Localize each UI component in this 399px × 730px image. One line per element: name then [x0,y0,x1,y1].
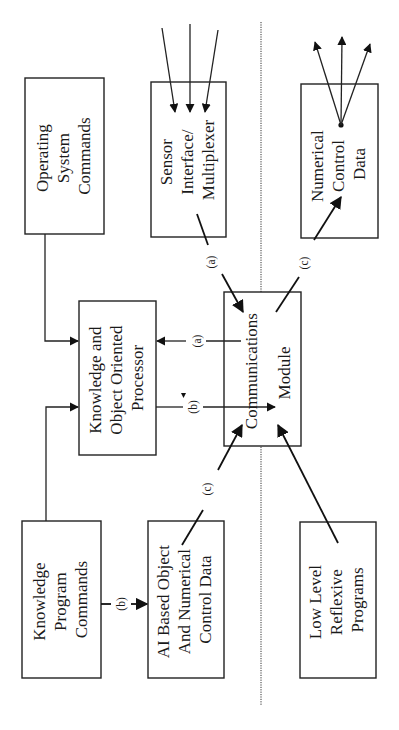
knowledge-object-processor-box: Knowledge and Object Oriented Processor [79,301,156,455]
program-line-2: Program [51,572,70,631]
label-c-ai: (c) [201,482,214,495]
low-level-reflexive-programs-box: Low Level Reflexive Programs [300,522,376,678]
label-c-numerical: (c) [298,256,311,269]
program-to-ai-connection: (b) [101,597,147,611]
ai-line-1: AI Based Object [154,545,173,659]
sensor-line-1: Sensor [157,139,176,186]
small-triangle-marker [181,393,186,398]
low-level-line-1: Low Level [306,565,325,639]
operating-system-commands-box: Operating System Commands [25,78,104,234]
svg-text:Low Level Reflexive: Low Level Reflexive Programs [306,561,367,639]
os-to-processor-arrow [45,234,78,341]
ai-line-3: Control Data [196,555,215,644]
sensor-line-3: Multiplexer [199,120,218,201]
processor-line-2: Object Oriented [107,325,126,435]
communications-line-1: Communications [242,313,261,429]
numerical-line-3: Data [350,148,369,181]
ai-based-object-box: AI Based Object And Numerical Control Da… [148,521,224,678]
svg-text:AI Based Object And Nume: AI Based Object And Numerical Control Da… [154,541,215,659]
svg-text:Knowledge Program: Knowledge Program Commands [30,558,91,641]
numerical-line-2: Control [329,140,348,192]
low-level-line-3: Programs [348,567,367,632]
communications-module-box: Communications Module [224,292,301,446]
label-b-processor: (b) [187,400,200,414]
label-a-sensor: (a) [205,255,218,268]
ai-line-2: And Numerical [175,549,194,655]
operating-system-line-3: Commands [75,117,94,194]
knowledge-program-commands-box: Knowledge Program Commands [22,521,101,678]
processor-line-3: Processor [128,345,147,411]
operating-system-line-1: Operating [33,124,52,192]
communications-line-2: Module [275,347,294,400]
program-line-3: Commands [72,561,91,638]
processor-line-1: Knowledge and [86,326,105,434]
low-level-line-2: Reflexive [327,569,346,635]
numerical-line-1: Numerical [308,130,327,202]
operating-system-line-2: System [54,133,73,183]
program-to-processor-arrow [46,407,78,521]
numerical-control-data-box: Numerical Control Data [301,84,378,238]
sensor-line-2: Interface/ [178,129,197,194]
sensor-interface-multiplexer-box: Sensor Interface/ Multiplexer [151,82,226,237]
program-line-1: Knowledge [30,562,49,640]
svg-text:Operating System C: Operating System Commands [33,117,94,194]
system-block-diagram: Operating System Commands Sensor Interfa… [0,0,399,730]
label-a-processor: (a) [191,334,204,347]
label-b-ai: (b) [115,597,128,611]
